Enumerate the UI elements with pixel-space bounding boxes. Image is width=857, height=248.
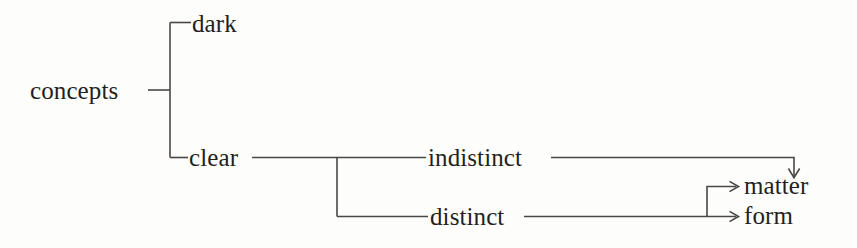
node-distinct: distinct [430,204,504,229]
node-matter: matter [744,173,808,198]
node-dark: dark [192,11,237,36]
node-concepts: concepts [30,78,118,103]
node-indistinct: indistinct [428,145,522,170]
node-clear: clear [189,145,238,170]
node-form: form [744,203,793,228]
diagram-connectors [0,0,857,248]
tree-diagram: concepts dark clear indistinct distinct … [0,0,857,248]
